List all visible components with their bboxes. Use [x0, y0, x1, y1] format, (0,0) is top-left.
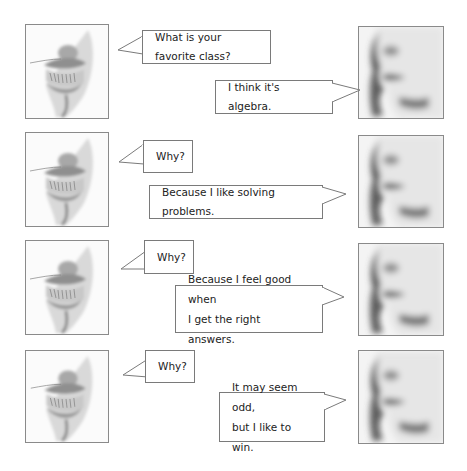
right-face-image	[358, 350, 444, 444]
bubble-text-line: I get the right answers.	[188, 309, 310, 349]
speech-bubble-left: What is your favorite class?	[142, 30, 271, 64]
bubble-tail	[118, 138, 144, 178]
right-face-image	[358, 26, 444, 119]
bubble-text: Why?	[158, 357, 182, 376]
left-face-image	[25, 132, 109, 227]
bubble-text: Why?	[157, 248, 181, 267]
bubble-tail	[332, 78, 362, 108]
speech-bubble-right: I think it's algebra.	[215, 80, 333, 114]
profile-face-icon	[359, 136, 443, 227]
bubble-tail	[117, 28, 143, 68]
bubble-text: I think it's algebra.	[228, 78, 320, 116]
grinning-mouth-icon	[26, 351, 108, 442]
speech-bubble-left: Why?	[144, 240, 194, 274]
left-face-image	[25, 240, 109, 335]
bubble-text-line: but I like to win.	[232, 417, 312, 457]
grinning-mouth-icon	[26, 133, 108, 226]
bubble-tail	[322, 285, 352, 315]
bubble-tail	[324, 390, 354, 420]
grinning-mouth-icon	[26, 25, 108, 118]
profile-face-icon	[359, 27, 443, 118]
profile-face-icon	[359, 351, 443, 443]
bubble-text-line: Because I feel good when	[188, 269, 310, 309]
speech-bubble-right: Because I feel good whenI get the right …	[175, 285, 323, 333]
speech-bubble-right: Because I like solving problems.	[149, 185, 323, 219]
bubble-text: What is your favorite class?	[155, 28, 258, 66]
left-face-image	[25, 350, 109, 443]
speech-bubble-left: Why?	[143, 140, 193, 173]
speech-bubble-left: Why?	[145, 350, 195, 383]
bubble-tail	[322, 182, 352, 212]
bubble-text: Because I like solving problems.	[162, 183, 310, 221]
right-face-image	[358, 243, 444, 336]
grinning-mouth-icon	[26, 241, 108, 334]
right-face-image	[358, 135, 444, 228]
speech-bubble-right: It may seem odd,but I like to win.	[219, 392, 325, 442]
bubble-text: Why?	[156, 147, 180, 166]
left-face-image	[25, 24, 109, 119]
bubble-text-line: It may seem odd,	[232, 377, 312, 417]
bubble-tail	[120, 245, 146, 285]
profile-face-icon	[359, 244, 443, 335]
